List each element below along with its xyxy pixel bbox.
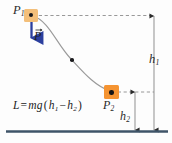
physics-diagram: P1 P2 h1 h2 P L=mg(h1−h2) xyxy=(0,0,172,143)
label-h2: h2 xyxy=(120,110,130,123)
label-h1-subscript: 1 xyxy=(155,58,159,67)
label-h2-subscript: 2 xyxy=(126,115,130,124)
formula-work-gravity: L=mg(h1−h2) xyxy=(13,99,83,113)
formula-term1-subscript: 1 xyxy=(55,105,59,113)
label-p1-letter: P xyxy=(13,3,21,17)
formula-mg: mg xyxy=(28,99,42,111)
point-dot-p2 xyxy=(109,90,114,95)
label-force-vector: P xyxy=(34,30,41,42)
label-p1: P1 xyxy=(13,4,25,17)
label-p1-subscript: 1 xyxy=(21,9,25,18)
formula-equals: = xyxy=(20,99,29,111)
formula-minus: − xyxy=(59,99,68,111)
formula-close-paren: ) xyxy=(77,99,83,111)
trajectory-path xyxy=(33,16,110,91)
label-p2-subscript: 2 xyxy=(110,104,114,113)
point-dot-p1 xyxy=(29,13,33,17)
formula-lhs: L xyxy=(13,99,20,111)
path-midpoint-dot xyxy=(70,58,74,62)
label-h1: h1 xyxy=(149,53,159,66)
label-p2: P2 xyxy=(103,99,114,112)
